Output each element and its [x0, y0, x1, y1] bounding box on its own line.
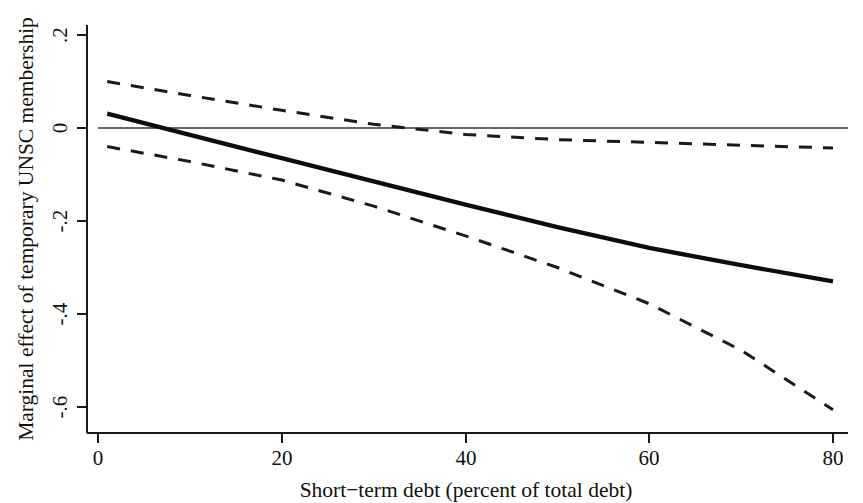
y-axis-title: Marginal effect of temporary UNSC member… — [14, 17, 38, 441]
marginal-effects-plot: .2 0 -.2 -.4 -.6 Marginal effect of temp… — [0, 0, 863, 503]
upper-confidence-line — [107, 82, 833, 149]
y-tick-label: -.2 — [48, 210, 72, 233]
lower-confidence-line — [107, 147, 833, 410]
x-tick-label: 0 — [93, 446, 104, 470]
y-tick-label: .2 — [48, 27, 72, 43]
plot-series-layer — [98, 82, 848, 410]
y-tick-label: -.4 — [48, 302, 72, 325]
y-axis-ticks — [77, 35, 87, 407]
x-tick-label: 20 — [272, 446, 293, 470]
x-axis-title: Short−term debt (percent of total debt) — [300, 478, 633, 502]
x-tick-label: 80 — [823, 446, 844, 470]
x-axis-tick-labels: 0 20 40 60 80 — [93, 446, 844, 470]
marginal-effect-line — [107, 114, 833, 282]
chart-svg: .2 0 -.2 -.4 -.6 Marginal effect of temp… — [0, 0, 863, 503]
x-axis-ticks — [98, 433, 833, 443]
y-tick-label: -.6 — [48, 396, 72, 419]
y-tick-label: 0 — [48, 123, 72, 134]
x-tick-label: 40 — [456, 446, 477, 470]
x-tick-label: 60 — [639, 446, 660, 470]
y-axis-tick-labels: .2 0 -.2 -.4 -.6 — [48, 27, 72, 418]
